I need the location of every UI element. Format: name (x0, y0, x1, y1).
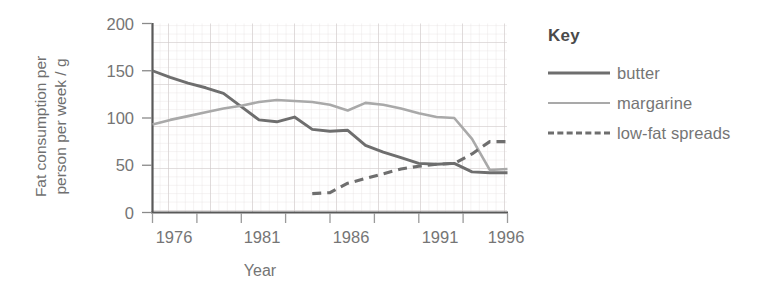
chart-legend: Key butter margarine low-fat spreads (548, 26, 773, 148)
ytick-label-50: 50 (92, 156, 134, 175)
legend-item-margarine[interactable]: margarine (548, 88, 773, 118)
line-chart-canvas (0, 0, 530, 294)
legend-item-low-fat-spreads[interactable]: low-fat spreads (548, 118, 773, 148)
xtick-label-1976: 1976 (156, 228, 193, 247)
y-axis-ticks (142, 24, 152, 213)
legend-item-butter[interactable]: butter (548, 58, 773, 88)
y-axis-title-line1: Fat consumption per (31, 16, 51, 236)
legend-swatch-margarine-icon (548, 97, 610, 109)
legend-label-butter: butter (617, 64, 660, 83)
y-axis-title-line2: person per week / g (51, 16, 71, 236)
xtick-label-1996: 1996 (488, 228, 525, 247)
y-axis-title: Fat consumption per person per week / g (31, 16, 72, 236)
ytick-label-0: 0 (92, 203, 134, 222)
x-axis-title: Year (0, 262, 520, 280)
x-axis-ticks (153, 213, 508, 223)
xtick-label-1981: 1981 (244, 228, 281, 247)
chart-figure: 200 150 100 50 0 1976 1981 1986 1991 199… (0, 0, 777, 294)
legend-title: Key (548, 26, 773, 46)
legend-label-low-fat-spreads: low-fat spreads (617, 124, 730, 143)
legend-swatch-low-fat-spreads-icon (548, 127, 610, 139)
ytick-label-200: 200 (92, 14, 134, 33)
ytick-label-150: 150 (92, 61, 134, 80)
legend-label-margarine: margarine (617, 94, 692, 113)
ytick-label-100: 100 (92, 109, 134, 128)
xtick-label-1986: 1986 (333, 228, 370, 247)
legend-swatch-butter-icon (548, 67, 610, 79)
xtick-label-1991: 1991 (422, 228, 459, 247)
